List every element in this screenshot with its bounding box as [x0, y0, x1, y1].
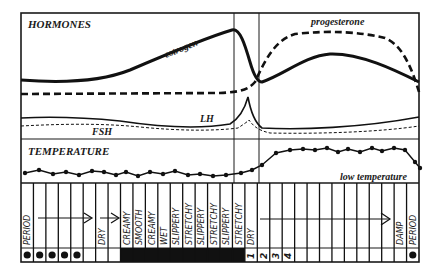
temperature-point — [23, 171, 27, 175]
temperature-point — [260, 163, 264, 167]
progesterone-curve — [21, 32, 419, 94]
bleeding-dot — [73, 251, 80, 258]
temperature-point — [392, 146, 396, 150]
bleeding-dot — [24, 251, 31, 258]
mucus-label: PERIOD — [409, 215, 418, 245]
estrogen-label: estrogen — [163, 36, 200, 59]
post-peak-count: 3 — [271, 253, 281, 259]
temperature-point — [51, 172, 55, 176]
bleeding-dot — [61, 251, 68, 258]
temperature-point — [239, 171, 243, 175]
temperature-point — [77, 173, 81, 177]
mucus-label: CREAMY — [148, 210, 157, 245]
post-peak-count: 1 — [246, 253, 256, 259]
post-peak-count: 4 — [283, 253, 293, 260]
lh-label: LH — [199, 113, 215, 124]
temperature-point — [418, 166, 422, 170]
temperature-point — [380, 149, 384, 153]
temperature-point — [288, 148, 292, 152]
temperature-point — [124, 170, 128, 174]
fsh-curve — [21, 120, 419, 133]
temperature-point — [64, 170, 68, 174]
mucus-label: PERIOD — [23, 215, 32, 245]
temperature-point — [325, 146, 329, 150]
mucus-label: SLIPPERY — [197, 207, 206, 245]
mucus-label: SMOOTH — [135, 210, 144, 245]
mucus-label: DRY — [247, 227, 256, 245]
bleeding-dot — [48, 251, 55, 258]
mucus-label: STRETCHY — [210, 202, 219, 245]
temperature-point — [136, 174, 140, 178]
low-temperature-label: low temperature — [340, 171, 408, 182]
mucus-label: SLIPPERY — [222, 207, 231, 245]
mucus-label: SLIPPERY — [172, 207, 181, 245]
temperature-point — [346, 147, 350, 151]
dry-arrow-3 — [260, 213, 390, 225]
temperature-point — [198, 172, 202, 176]
temperature-point — [413, 160, 417, 164]
mucus-label: CREAMY — [123, 210, 132, 245]
temperature-point — [161, 172, 165, 176]
progesterone-label: progesterone — [310, 16, 365, 27]
post-peak-count: 2 — [259, 253, 269, 259]
temperature-point — [358, 150, 362, 154]
dry-arrow-2 — [100, 213, 119, 223]
temperature-point — [37, 168, 41, 172]
temperature-point — [274, 151, 278, 155]
temperature-point — [114, 173, 118, 177]
temperature-point — [90, 169, 94, 173]
temperature-point — [370, 146, 374, 150]
temperature-title: TEMPERATURE — [28, 145, 109, 157]
mucus-label: WET — [160, 226, 169, 245]
mucus-grid-columns — [33, 183, 406, 262]
mucus-label: STRETCHY — [185, 202, 194, 245]
temperature-point — [224, 173, 228, 177]
temperature-point — [403, 148, 407, 152]
estrogen-curve — [21, 30, 419, 82]
lh-curve — [21, 97, 419, 129]
temperature-point — [148, 170, 152, 174]
hormones-title: HORMONES — [27, 18, 91, 30]
temperature-point — [336, 150, 340, 154]
mucus-label: STRETCHY — [235, 202, 244, 245]
temperature-point — [301, 147, 305, 151]
mucus-label: DAMP — [396, 221, 405, 245]
mucus-label: DRY — [98, 227, 107, 245]
temperature-point — [313, 148, 317, 152]
bleeding-dot — [36, 251, 43, 258]
bleeding-dot — [409, 251, 416, 258]
fsh-label: FSH — [91, 126, 113, 137]
temperature-point — [173, 169, 177, 173]
menstrual-cycle-diagram: HORMONES estrogen progesterone LH FSH TE… — [0, 0, 441, 272]
temperature-point — [211, 174, 215, 178]
temperature-point — [102, 170, 106, 174]
temperature-point — [250, 168, 254, 172]
temperature-point — [186, 173, 190, 177]
